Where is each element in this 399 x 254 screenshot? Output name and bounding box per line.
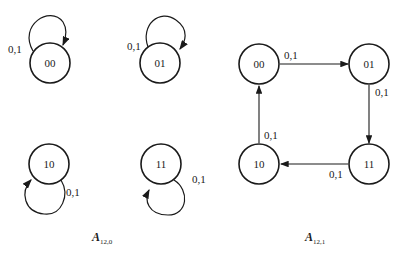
diagram-a12-1: 00 01 10 11 0,1 0,1 0,1 0,1 — [239, 44, 389, 184]
node-10-left: 10 0,1 — [25, 144, 80, 214]
node-01-right: 01 — [349, 44, 389, 84]
edge-label: 0,1 — [375, 86, 389, 98]
self-loop-label: 0,1 — [127, 40, 141, 52]
edge-label: 0,1 — [284, 49, 298, 61]
edge-label: 0,1 — [329, 168, 343, 180]
edge-01-11: 0,1 — [369, 85, 389, 143]
caption-subscript: 12,0 — [100, 238, 112, 246]
node-label: 01 — [155, 57, 166, 69]
state-diagrams: 00 0,1 01 0,1 10 0,1 11 0,1 00 — [0, 0, 399, 254]
edge-10-00: 0,1 — [259, 86, 278, 143]
edge-11-10: 0,1 — [281, 164, 348, 180]
edge-label: 0,1 — [264, 129, 278, 141]
node-00-left: 00 0,1 — [8, 16, 70, 83]
node-label: 10 — [44, 158, 56, 170]
node-label: 10 — [254, 158, 266, 170]
node-11-left: 11 0,1 — [141, 144, 206, 215]
node-label: 01 — [364, 58, 375, 70]
caption-main: A — [305, 230, 313, 244]
diagram-a12-0: 00 0,1 01 0,1 10 0,1 11 0,1 — [8, 16, 206, 215]
node-01-left: 01 0,1 — [127, 16, 185, 83]
self-loop-label: 0,1 — [8, 43, 22, 55]
self-loop-label: 0,1 — [192, 173, 206, 185]
caption-main: A — [92, 230, 100, 244]
node-label: 11 — [364, 158, 375, 170]
node-label: 11 — [156, 158, 167, 170]
caption-a12-0: A12,0 — [92, 230, 112, 246]
self-loop-label: 0,1 — [66, 186, 80, 198]
node-10-right: 10 — [239, 144, 279, 184]
node-label: 00 — [45, 57, 57, 69]
node-00-right: 00 — [239, 44, 279, 84]
node-11-right: 11 — [349, 144, 389, 184]
node-label: 00 — [254, 58, 266, 70]
caption-subscript: 12,1 — [313, 238, 325, 246]
caption-a12-1: A12,1 — [305, 230, 325, 246]
edge-00-01: 0,1 — [280, 49, 348, 64]
